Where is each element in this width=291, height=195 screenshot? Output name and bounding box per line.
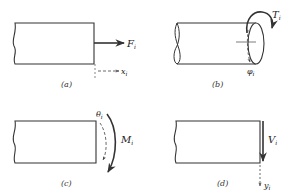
bar-body [13,23,94,64]
displacement-label: xi [121,67,128,77]
caption-a: (a) [61,80,72,89]
shear-label: Vi [268,134,277,146]
shaft-end-face [248,23,264,64]
beam-body [13,121,96,163]
twist-angle-label: φi [247,67,255,77]
rotation-label: θi [96,110,103,120]
shaft-break-icon [174,23,180,64]
panel-d-shear: Vi yi (d) [174,121,277,191]
force-label: Fi [126,38,136,50]
caption-c: (c) [61,179,72,188]
panel-a-axial-force: Fi xi (a) [13,23,136,89]
rotation-arrow-icon [100,123,106,160]
torque-label: Ti [272,9,281,21]
caption-d: (d) [217,179,228,188]
moment-arrow-icon [107,114,115,172]
panel-b-torque: Ti φi (b) [174,9,281,89]
element-end-loads-figure: Fi xi (a) Ti φi (b) θi Mi (c) Vi yi (d) [0,0,291,195]
panel-c-moment: θi Mi (c) [13,110,133,188]
moment-label: Mi [120,134,133,146]
deflection-label: yi [263,181,271,191]
caption-b: (b) [212,80,223,89]
beam-body [174,121,260,163]
